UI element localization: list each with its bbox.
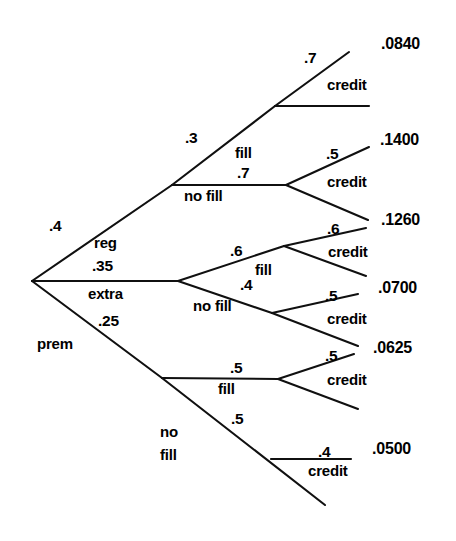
probability-label-reg: .4: [49, 218, 62, 234]
probability-tree-diagram: .4 reg .35 extra .25 prem .3 fill .7 no …: [0, 0, 456, 541]
branch-label-credit-3: credit: [328, 244, 368, 260]
outcome-value-1: .0840: [381, 36, 420, 53]
branch-label-extra: extra: [88, 286, 123, 302]
probability-label-prem: .25: [98, 313, 119, 329]
probability-label-credit-1: .7: [304, 50, 317, 66]
branch-label-reg: reg: [94, 235, 117, 251]
branch-label-credit-4: credit: [327, 311, 367, 327]
branch-label-prem-fill: fill: [218, 381, 235, 397]
probability-label-prem-fill: .5: [230, 360, 243, 376]
branch-prem-nofill: [162, 378, 325, 505]
branch-regnofill-credit-no: [286, 185, 368, 220]
branch-label-credit-1: credit: [327, 77, 367, 93]
branch-label-prem-nofill-line1: no: [160, 424, 178, 440]
branch-label-extra-nofill: no fill: [193, 298, 232, 314]
probability-label-credit-2: .5: [326, 146, 339, 162]
outcome-value-4: .0700: [378, 280, 417, 297]
branch-label-credit-6: credit: [308, 463, 348, 479]
branch-label-reg-fill: fill: [235, 145, 252, 161]
probability-label-reg-nofill: .7: [237, 165, 250, 181]
branch-label-reg-nofill: no fill: [184, 188, 223, 204]
tree-branch-lines: [0, 0, 456, 541]
probability-label-credit-4: .5: [325, 288, 338, 304]
probability-label-credit-5: .5: [325, 348, 338, 364]
branch-label-credit-5: credit: [327, 372, 367, 388]
outcome-value-6: .0500: [372, 441, 411, 458]
branch-label-prem-nofill-line2: fill: [160, 447, 177, 463]
probability-label-credit-6: .4: [318, 444, 331, 460]
branch-label-prem: prem: [37, 336, 73, 352]
probability-label-credit-3: .6: [327, 221, 340, 237]
outcome-value-5: .0625: [373, 340, 412, 357]
outcome-value-2: .1400: [380, 132, 419, 149]
probability-label-extra: .35: [92, 258, 113, 274]
probability-label-reg-fill: .3: [185, 130, 198, 146]
branch-prem-fill: [162, 378, 278, 379]
probability-label-prem-nofill: .5: [231, 411, 244, 427]
outcome-value-3: .1260: [381, 212, 420, 229]
branch-label-credit-2: credit: [327, 174, 367, 190]
branch-label-extra-fill: fill: [255, 262, 272, 278]
probability-label-extra-nofill: .4: [240, 277, 253, 293]
probability-label-extra-fill: .6: [230, 243, 243, 259]
